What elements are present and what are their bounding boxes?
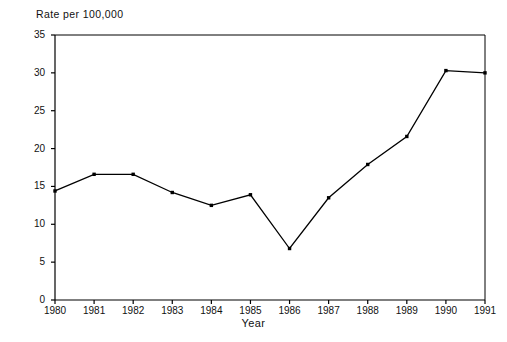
data-point-marker — [444, 69, 447, 72]
y-tick-label: 25 — [19, 105, 45, 116]
x-tick-label: 1986 — [270, 305, 310, 316]
y-tick-label: 10 — [19, 218, 45, 229]
axes — [55, 35, 485, 300]
data-point-marker — [171, 191, 174, 194]
x-tick-label: 1980 — [35, 305, 75, 316]
x-tick-label: 1983 — [152, 305, 192, 316]
y-tick-label: 5 — [19, 256, 45, 267]
y-tick-label: 15 — [19, 180, 45, 191]
plot-area — [0, 0, 507, 342]
data-point-marker — [327, 196, 330, 199]
data-point-marker — [249, 193, 252, 196]
line-chart: Rate per 100,000 Year 05101520253035 198… — [0, 0, 507, 342]
x-tick-label: 1990 — [426, 305, 466, 316]
data-point-marker — [210, 204, 213, 207]
x-tick-label: 1987 — [309, 305, 349, 316]
y-tick-label: 20 — [19, 143, 45, 154]
data-point-marker — [92, 173, 95, 176]
data-series-line — [55, 71, 485, 249]
data-point-marker — [483, 71, 486, 74]
x-tick-label: 1985 — [230, 305, 270, 316]
y-tick-label: 30 — [19, 67, 45, 78]
data-point-marker — [288, 247, 291, 250]
data-point-marker — [131, 173, 134, 176]
data-point-markers — [53, 69, 486, 250]
y-tick-label: 35 — [19, 29, 45, 40]
x-tick-label: 1989 — [387, 305, 427, 316]
x-tick-label: 1981 — [74, 305, 114, 316]
x-tick-label: 1984 — [191, 305, 231, 316]
y-tick-label: 0 — [19, 294, 45, 305]
data-point-marker — [53, 189, 56, 192]
data-point-marker — [405, 135, 408, 138]
data-point-marker — [366, 163, 369, 166]
x-tick-label: 1988 — [348, 305, 388, 316]
x-tick-label: 1982 — [113, 305, 153, 316]
x-tick-label: 1991 — [465, 305, 505, 316]
